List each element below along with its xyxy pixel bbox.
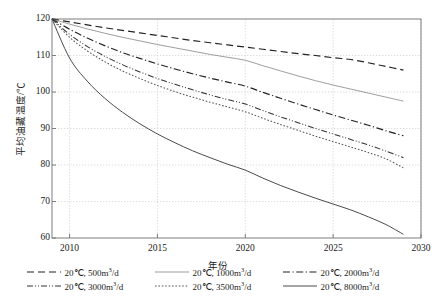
legend-label: 20℃, 500m3/d	[62, 266, 119, 278]
legend-item-4[interactable]: 20℃, 3500m3/d	[154, 280, 282, 292]
chart-legend: 20℃, 500m3/d20℃, 1000m3/d20℃, 2000m3/d20…	[0, 266, 435, 292]
legend-item-2[interactable]: 20℃, 2000m3/d	[282, 266, 410, 278]
series-line-4	[52, 19, 403, 168]
gridlines	[52, 19, 421, 238]
chart-root: 平均油藏温度/℃ 年份 60708090100110120 2010201520…	[0, 0, 435, 300]
legend-item-5[interactable]: 20℃, 8000m3/d	[282, 280, 410, 292]
legend-row-0: 20℃, 500m3/d20℃, 1000m3/d20℃, 2000m3/d	[26, 266, 410, 278]
legend-label: 20℃, 3500m3/d	[190, 280, 252, 292]
legend-line-swatch-icon	[282, 267, 318, 277]
legend-label: 20℃, 1000m3/d	[190, 266, 252, 278]
legend-line-swatch-icon	[282, 281, 318, 291]
legend-item-0[interactable]: 20℃, 500m3/d	[26, 266, 154, 278]
plot-area	[0, 0, 435, 300]
legend-item-1[interactable]: 20℃, 1000m3/d	[154, 266, 282, 278]
legend-label: 20℃, 3000m3/d	[62, 280, 124, 292]
legend-label: 20℃, 2000m3/d	[318, 266, 380, 278]
legend-line-swatch-icon	[154, 281, 190, 291]
legend-line-swatch-icon	[26, 267, 62, 277]
legend-line-swatch-icon	[26, 281, 62, 291]
series-line-0	[52, 19, 403, 70]
legend-item-3[interactable]: 20℃, 3000m3/d	[26, 280, 154, 292]
series-line-2	[52, 19, 403, 136]
legend-row-1: 20℃, 3000m3/d20℃, 3500m3/d20℃, 8000m3/d	[26, 280, 410, 292]
series-line-3	[52, 19, 403, 158]
legend-label: 20℃, 8000m3/d	[318, 280, 380, 292]
data-series-layer	[52, 19, 403, 234]
series-line-5	[52, 19, 403, 234]
legend-line-swatch-icon	[154, 267, 190, 277]
